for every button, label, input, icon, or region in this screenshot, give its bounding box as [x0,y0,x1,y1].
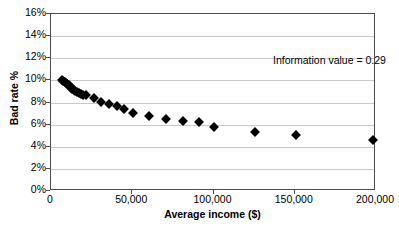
x-axis-tick-mark [213,190,214,194]
x-axis-tick-label: 200,000 [340,193,399,205]
y-axis-tick-label: 2% [4,162,46,173]
y-axis-tick-mark [46,102,50,103]
x-axis-title: Average income ($) [50,208,375,220]
x-axis-tick-mark [131,190,132,194]
x-axis-tick-label: 50,000 [96,193,166,205]
y-axis-tick-mark [46,35,50,36]
y-axis-tick-mark [46,146,50,147]
y-axis-tick-mark [46,57,50,58]
y-axis-tick-mark [46,190,50,191]
y-axis-tick-label: 14% [4,29,46,40]
y-axis-tick-mark [46,124,50,125]
y-axis-tick-mark [46,13,50,14]
x-axis-tick-mark [294,190,295,194]
y-axis-tick-mark [46,79,50,80]
x-axis-tick-label: 150,000 [259,193,329,205]
y-axis-tick-mark [46,168,50,169]
y-axis-title: Bad rate % [8,53,20,143]
y-axis-tick-label: 16% [4,7,46,18]
x-axis-tick-label: 0 [15,193,85,205]
x-axis-tick-label: 100,000 [178,193,248,205]
